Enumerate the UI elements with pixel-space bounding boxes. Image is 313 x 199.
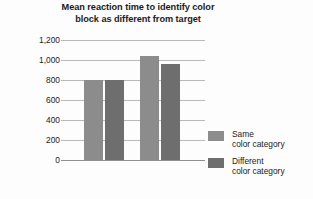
y-tick-label-800: 800 [20,76,60,84]
chart-title-line-2: block as different from target [26,14,250,26]
y-tick-label-1200: 1,200 [20,36,60,44]
legend-label-same: Same color category [232,129,285,150]
gridline-1200 [61,40,205,41]
legend-item-different: Different color category [208,157,311,184]
gridline-400 [61,120,205,121]
legend-swatch-different-icon [208,158,224,168]
legend-label-same-line-1: Same [232,129,285,139]
y-tick-label-0: 0 [20,156,60,164]
legend-label-same-line-2: color category [232,139,285,149]
legend-label-different: Different color category [232,156,285,177]
chart-title-line-1: Mean reaction time to identify color [26,2,250,14]
bar-english-different-color-category [105,80,124,160]
bar-russian-same-color-category [140,56,159,161]
gridline-200 [61,140,205,141]
legend-swatch-same-icon [208,131,224,141]
y-tick-label-200: 200 [20,136,60,144]
y-tick-label-1000: 1,000 [20,56,60,64]
chart-title: Mean reaction time to identify color blo… [26,2,250,25]
plot-area: English Russian [61,40,205,160]
gridline-1000 [61,60,205,61]
chart-legend: Same color category Different color cate… [208,130,311,184]
legend-item-same: Same color category [208,130,311,157]
gridline-800 [61,80,205,81]
y-tick-label-400: 400 [20,116,60,124]
legend-label-different-line-2: color category [232,166,285,176]
chart-figure: Mean reaction time to identify color blo… [0,0,313,199]
bar-english-same-color-category [84,80,103,160]
gridline-600 [61,100,205,101]
bar-russian-different-color-category [161,64,180,161]
x-axis-line [61,160,205,161]
y-tick-label-600: 600 [20,96,60,104]
legend-label-different-line-1: Different [232,156,285,166]
